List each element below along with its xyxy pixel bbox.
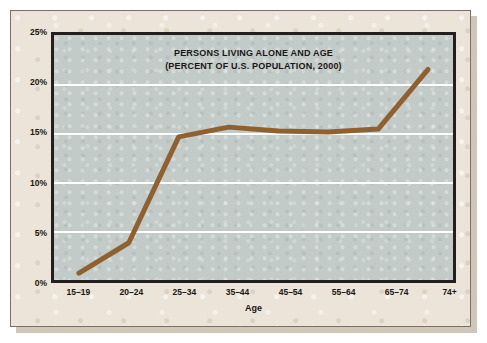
chart-title-line1: PERSONS LIVING ALONE AND AGE xyxy=(54,47,453,60)
chart-title: PERSONS LIVING ALONE AND AGE (PERCENT OF… xyxy=(54,47,453,73)
y-tick-20: 20% xyxy=(13,77,47,87)
x-tick-65-74: 65–74 xyxy=(385,287,409,297)
plot-area: PERSONS LIVING ALONE AND AGE (PERCENT OF… xyxy=(51,32,456,283)
x-tick-20-24: 20–24 xyxy=(120,287,144,297)
chart-title-line2: (PERCENT OF U.S. POPULATION, 2000) xyxy=(54,60,453,73)
line-path xyxy=(79,69,428,273)
x-tick-55-64: 55–64 xyxy=(332,287,356,297)
figure-container: 25% 20% 15% 10% 5% 0% PERSONS LIVING ALO… xyxy=(0,0,487,343)
y-tick-5: 5% xyxy=(13,228,47,238)
x-tick-45-54: 45–54 xyxy=(279,287,303,297)
y-axis-labels: 25% 20% 15% 10% 5% 0% xyxy=(11,32,47,283)
y-tick-15: 15% xyxy=(13,127,47,137)
y-tick-0: 0% xyxy=(13,278,47,288)
chart-card: 25% 20% 15% 10% 5% 0% PERSONS LIVING ALO… xyxy=(10,10,471,327)
x-axis-labels: 15–19 20–24 25–34 35–44 45–54 55–64 65–7… xyxy=(51,287,456,301)
y-tick-25: 25% xyxy=(13,27,47,37)
x-tick-25-34: 25–34 xyxy=(173,287,197,297)
x-axis-title: Age xyxy=(51,303,456,313)
x-tick-15-19: 15–19 xyxy=(67,287,91,297)
y-tick-10: 10% xyxy=(13,178,47,188)
x-tick-35-44: 35–44 xyxy=(226,287,250,297)
x-tick-74plus: 74+ xyxy=(442,287,456,297)
